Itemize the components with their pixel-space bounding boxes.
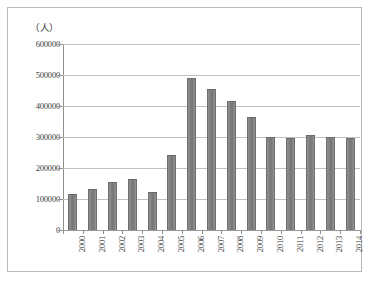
x-tick-mark-6 bbox=[182, 230, 183, 234]
x-tick-label-2011: 2011 bbox=[295, 236, 305, 252]
bar-2010 bbox=[266, 137, 275, 230]
bar-2003 bbox=[128, 179, 137, 230]
x-tick-label-2007: 2007 bbox=[216, 236, 226, 252]
x-tick-label-2000: 2000 bbox=[77, 236, 87, 252]
x-tick-label-2013: 2013 bbox=[334, 236, 344, 252]
x-tick-mark-7 bbox=[202, 230, 203, 234]
x-tick-mark-11 bbox=[281, 230, 282, 234]
gridline-600000 bbox=[63, 44, 360, 45]
x-tick-label-2009: 2009 bbox=[255, 236, 265, 252]
y-tick-label-100000: 100000 bbox=[14, 194, 60, 204]
y-tick-label-400000: 400000 bbox=[14, 101, 60, 111]
x-tick-mark-13 bbox=[320, 230, 321, 234]
x-tick-label-2010: 2010 bbox=[275, 236, 285, 252]
bar-2013 bbox=[326, 137, 335, 230]
x-tick-label-2006: 2006 bbox=[196, 236, 206, 252]
x-tick-label-2004: 2004 bbox=[156, 236, 166, 252]
x-tick-label-2005: 2005 bbox=[176, 236, 186, 252]
bar-2008 bbox=[227, 101, 236, 230]
y-tick-label-500000: 500000 bbox=[14, 70, 60, 80]
x-tick-label-2012: 2012 bbox=[315, 236, 325, 252]
y-tick-label-300000: 300000 bbox=[14, 132, 60, 142]
x-tick-label-2001: 2001 bbox=[97, 236, 107, 252]
bar-2014 bbox=[346, 138, 355, 230]
x-tick-mark-1 bbox=[83, 230, 84, 234]
bar-2005 bbox=[167, 155, 176, 230]
x-tick-mark-4 bbox=[142, 230, 143, 234]
gridline-500000 bbox=[63, 75, 360, 76]
x-tick-mark-12 bbox=[301, 230, 302, 234]
y-tick-label-200000: 200000 bbox=[14, 163, 60, 173]
y-tick-label-600000: 600000 bbox=[14, 39, 60, 49]
x-axis-tick-marks bbox=[63, 230, 360, 235]
x-tick-mark-15 bbox=[360, 230, 361, 234]
bar-2000 bbox=[68, 194, 77, 230]
x-tick-mark-0 bbox=[63, 230, 64, 234]
x-tick-mark-10 bbox=[261, 230, 262, 234]
x-tick-label-2008: 2008 bbox=[235, 236, 245, 252]
chart-frame: （人） 010000020000030000040000050000060000… bbox=[7, 7, 362, 272]
x-tick-mark-3 bbox=[122, 230, 123, 234]
x-tick-mark-14 bbox=[340, 230, 341, 234]
bar-2012 bbox=[306, 135, 315, 230]
bar-2001 bbox=[88, 189, 97, 230]
x-tick-mark-8 bbox=[221, 230, 222, 234]
bar-2009 bbox=[247, 117, 256, 230]
x-tick-mark-5 bbox=[162, 230, 163, 234]
y-axis-tick-labels: 0100000200000300000400000500000600000 bbox=[8, 44, 60, 230]
bar-2011 bbox=[286, 138, 295, 230]
y-axis-unit-label: （人） bbox=[30, 20, 59, 34]
bar-2004 bbox=[148, 192, 157, 230]
bar-2007 bbox=[207, 89, 216, 230]
x-tick-label-2003: 2003 bbox=[136, 236, 146, 252]
bar-2006 bbox=[187, 78, 196, 230]
y-tick-label-0: 0 bbox=[14, 225, 60, 235]
x-axis-tick-labels: 2000200120022003200420052006200720082009… bbox=[63, 236, 360, 276]
x-tick-label-2002: 2002 bbox=[117, 236, 127, 252]
bar-2002 bbox=[108, 182, 117, 230]
x-tick-mark-9 bbox=[241, 230, 242, 234]
plot-area bbox=[63, 44, 360, 230]
x-tick-mark-2 bbox=[103, 230, 104, 234]
x-tick-label-2014: 2014 bbox=[354, 236, 364, 252]
